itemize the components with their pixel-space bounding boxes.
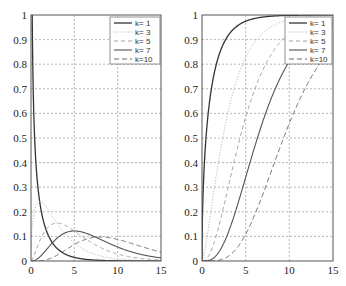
y-tick-label: 0.2 [184, 206, 198, 218]
y-tick-label: 0.9 [13, 34, 27, 46]
cdf-plot: 05101500.10.20.30.40.50.60.70.80.91k= 1k… [184, 9, 339, 276]
x-tick-label: 15 [328, 264, 340, 276]
x-tick-label: 10 [284, 264, 296, 276]
y-tick-label: 0.3 [13, 181, 27, 193]
x-tick-label: 5 [243, 264, 249, 276]
legend-label: k= 1 [310, 19, 326, 28]
x-tick-label: 10 [112, 264, 124, 276]
x-tick-label: 0 [199, 264, 205, 276]
legend-label: k= 5 [135, 37, 151, 46]
y-tick-label: 0 [22, 255, 28, 267]
figure: 05101500.10.20.30.40.50.60.70.80.91k= 1k… [0, 0, 346, 286]
legend-label: k=10 [135, 55, 153, 64]
y-tick-label: 0.2 [13, 206, 27, 218]
x-tick-label: 5 [72, 264, 78, 276]
series-k5 [31, 223, 161, 261]
legend-label: k= 5 [310, 37, 326, 46]
chi-square-figure: 05101500.10.20.30.40.50.60.70.80.91k= 1k… [0, 0, 346, 286]
legend: k= 1k= 3k= 5k= 7k=10 [110, 17, 160, 64]
y-tick-label: 0.3 [184, 181, 198, 193]
y-tick-label: 0.9 [184, 34, 198, 46]
y-tick-label: 0.6 [13, 107, 27, 119]
y-tick-label: 0.5 [13, 132, 27, 144]
legend-label: k= 1 [135, 19, 151, 28]
legend-label: k= 7 [310, 46, 326, 55]
y-tick-label: 0.7 [13, 83, 27, 95]
y-tick-label: 0.5 [184, 132, 198, 144]
legend-label: k= 3 [310, 28, 326, 37]
legend-label: k=10 [310, 55, 328, 64]
x-tick-label: 15 [156, 264, 168, 276]
legend-label: k= 7 [135, 46, 151, 55]
y-tick-label: 0 [193, 255, 199, 267]
y-tick-label: 0.8 [13, 58, 27, 70]
y-tick-label: 0.8 [184, 58, 198, 70]
y-tick-label: 0.1 [13, 230, 27, 242]
series-k7 [31, 231, 161, 261]
x-tick-label: 0 [28, 264, 34, 276]
series-k10 [202, 47, 333, 261]
series-k3 [31, 201, 161, 260]
y-tick-label: 1 [22, 9, 28, 21]
legend: k= 1k= 3k= 5k= 7k=10 [285, 17, 332, 64]
pdf-plot: 05101500.10.20.30.40.50.60.70.80.91k= 1k… [13, 0, 167, 276]
legend-label: k= 3 [135, 28, 151, 37]
y-tick-label: 0.1 [184, 230, 198, 242]
y-tick-label: 0.7 [184, 83, 198, 95]
y-tick-label: 0.4 [184, 157, 198, 169]
y-tick-label: 0.6 [184, 107, 198, 119]
y-tick-label: 1 [193, 9, 199, 21]
y-tick-label: 0.4 [13, 157, 27, 169]
